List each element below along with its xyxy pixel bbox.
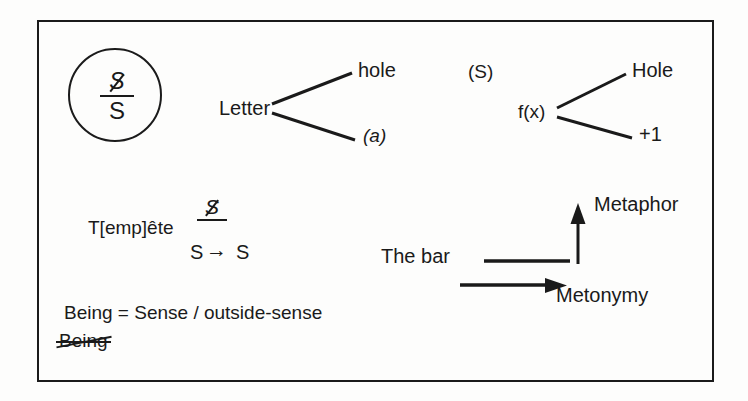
letter-root-label: Letter [219,98,270,118]
formula-arrow: → [206,239,227,260]
barred-subject-circle: S S [68,48,162,142]
circle-denominator: S [70,99,164,123]
hole-lower-label: hole [358,60,396,80]
formula-numerator: S [186,196,238,217]
tempete-label: T[emp]ête [88,218,174,237]
capital-s-paren-label: (S) [468,62,493,81]
formula-fraction-rule [197,219,227,221]
plus-one-label: +1 [639,124,662,144]
formula-fraction: S [186,196,238,223]
diagram-canvas: S S Letter hole (a) (S) f(x) Hole +1 T[e… [0,0,748,401]
the-bar-label: The bar [381,246,450,266]
being-equation: Being = Sense / outside-sense [64,303,322,322]
fx-root-label: f(x) [518,102,545,121]
being-struck: Being [59,331,108,350]
circle-fraction: S S [70,70,164,123]
barred-s-glyph: S [109,70,124,93]
barred-s-glyph-formula: S [205,196,219,217]
objet-a-label: (a) [363,126,386,145]
formula-result: S [236,242,249,262]
metaphor-label: Metaphor [594,194,679,214]
being-struck-word: Being [59,331,108,350]
formula-denominator: S [190,242,203,262]
hole-upper-label: Hole [632,60,673,80]
circle-numerator: S [70,70,164,93]
metonymy-label: Metonymy [556,285,648,305]
